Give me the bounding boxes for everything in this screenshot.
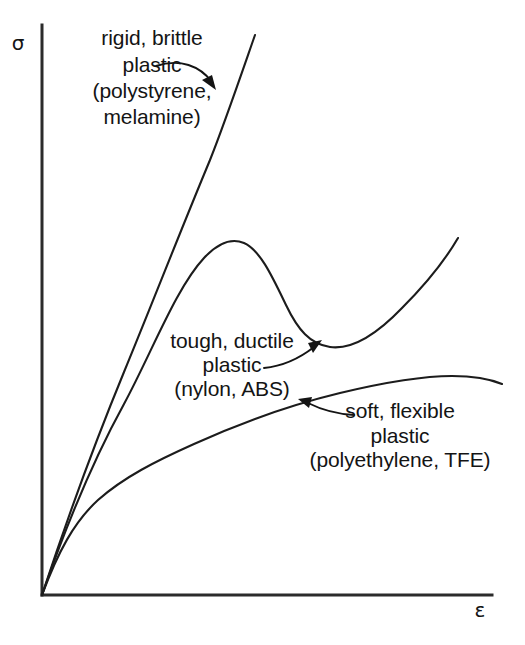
stress-strain-figure: σ ε rigid, brittle plastic (polystyrene,… xyxy=(0,0,525,645)
tough-ductile-line-2: plastic xyxy=(203,353,262,376)
soft-flexible-line-3: (polyethylene, TFE) xyxy=(310,448,491,471)
annotation-rigid-brittle: rigid, brittle plastic (polystyrene, mel… xyxy=(93,26,216,128)
rigid-brittle-line-2: plastic xyxy=(123,53,182,76)
annotation-soft-flexible: soft, flexible plastic (polyethylene, TF… xyxy=(298,397,490,471)
x-axis-label-epsilon: ε xyxy=(475,598,486,622)
stress-strain-chart-svg: σ ε rigid, brittle plastic (polystyrene,… xyxy=(0,0,525,645)
annotation-tough-ductile: tough, ductile plastic (nylon, ABS) xyxy=(170,329,322,400)
soft-flexible-line-2: plastic xyxy=(371,424,430,447)
rigid-brittle-line-4: melamine) xyxy=(103,105,200,128)
tough-ductile-line-3: (nylon, ABS) xyxy=(174,377,290,400)
rigid-brittle-line-3: (polystyrene, xyxy=(93,79,212,102)
tough-ductile-line-1: tough, ductile xyxy=(170,329,294,352)
y-axis-label-sigma: σ xyxy=(12,31,25,55)
soft-flexible-line-1: soft, flexible xyxy=(345,399,455,422)
rigid-brittle-line-1: rigid, brittle xyxy=(101,26,202,49)
soft-flexible-arrow-icon xyxy=(298,397,312,408)
